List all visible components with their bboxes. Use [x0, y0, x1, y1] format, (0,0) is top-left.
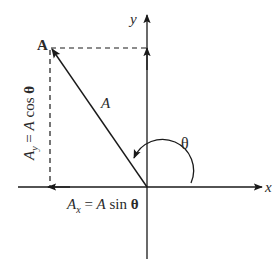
y-axis-label: y [128, 11, 137, 27]
x-axis-label: x [264, 179, 272, 195]
svg-text:Ax = A sin θ: Ax = A sin θ [66, 196, 139, 215]
ay-label: Ay = A cos θ [21, 86, 40, 161]
angle-arc: θ [134, 135, 194, 183]
ay-func: cos [21, 94, 37, 122]
ax-func: sin [106, 196, 131, 212]
angle-label: θ [181, 135, 189, 152]
point-label: A [37, 37, 48, 53]
ax-angle: θ [131, 196, 139, 212]
vector-label: A [100, 95, 111, 111]
ax-equals: = [81, 196, 97, 212]
ax-label: Ax = A sin θ [66, 196, 139, 215]
ay-angle: θ [21, 86, 37, 94]
vector-diagram: y x A A θ Ay = A cos θ Ax = A sin θ [0, 0, 280, 259]
x-axis: x [18, 179, 272, 195]
ay-equals: = [21, 130, 37, 146]
vector-a: A [52, 49, 147, 187]
svg-text:Ay = A cos θ: Ay = A cos θ [21, 86, 40, 161]
